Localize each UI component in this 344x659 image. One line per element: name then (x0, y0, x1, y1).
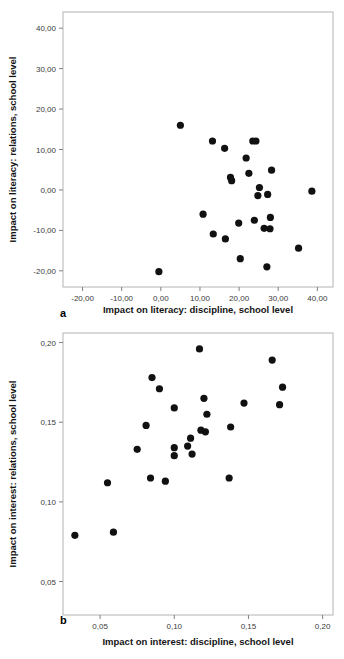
data-point (276, 401, 283, 408)
x-tick-label: 40,00 (307, 294, 328, 303)
data-point (171, 404, 178, 411)
data-point (226, 474, 233, 481)
data-point (264, 191, 271, 198)
data-point (188, 450, 195, 457)
scatter-figure-b: 0,050,100,150,200,050,100,150,20Impact o… (0, 320, 344, 659)
data-point (237, 255, 244, 262)
data-point (200, 395, 207, 402)
data-point (221, 145, 228, 152)
data-point (134, 446, 141, 453)
y-tick-label: -20,00 (33, 267, 56, 276)
data-point (243, 154, 250, 161)
data-point (156, 385, 163, 392)
data-point (256, 184, 263, 191)
data-point (209, 137, 216, 144)
data-point (268, 167, 275, 174)
x-axis-title: Impact on literacy: discipline, school l… (103, 304, 293, 315)
x-tick-label: -10,00 (110, 294, 133, 303)
data-point (308, 188, 315, 195)
y-tick-label: 10,00 (36, 146, 57, 155)
data-point (228, 177, 235, 184)
data-point (210, 230, 217, 237)
y-tick-label: 20,00 (36, 105, 57, 114)
panel-letter-b: b (60, 614, 67, 626)
data-point (251, 217, 258, 224)
data-point (147, 474, 154, 481)
x-tick-label: 0,20 (315, 622, 331, 631)
data-point (227, 423, 234, 430)
x-tick-label: 10,00 (190, 294, 211, 303)
data-point (235, 220, 242, 227)
data-point (162, 478, 169, 485)
x-tick-label: 30,00 (268, 294, 289, 303)
data-point (110, 529, 117, 536)
data-point (202, 428, 209, 435)
data-point (222, 235, 229, 242)
data-point (104, 479, 111, 486)
y-tick-label: 0,20 (40, 339, 56, 348)
data-point (199, 211, 206, 218)
data-point (266, 225, 273, 232)
data-point (279, 384, 286, 391)
data-point (203, 411, 210, 418)
data-point (245, 170, 252, 177)
scatter-plot-a: -20,00-10,000,0010,0020,0030,0040,00-20,… (0, 0, 344, 330)
y-tick-label: 0,15 (40, 418, 56, 427)
data-point (177, 122, 184, 129)
x-tick-label: 0,00 (153, 294, 169, 303)
data-point (184, 443, 191, 450)
data-point (148, 374, 155, 381)
data-point (240, 400, 247, 407)
data-point (71, 532, 78, 539)
x-tick-label: 0,10 (166, 622, 182, 631)
x-tick-label: -20,00 (71, 294, 94, 303)
data-point (142, 422, 149, 429)
y-tick-label: 40,00 (36, 24, 57, 33)
y-tick-label: 0,05 (40, 578, 56, 587)
x-tick-label: 0,15 (241, 622, 257, 631)
plot-frame (63, 12, 333, 287)
x-tick-label: 0,05 (92, 622, 108, 631)
data-point (171, 444, 178, 451)
y-tick-label: 0,00 (40, 186, 56, 195)
data-point (254, 192, 261, 199)
y-tick-label: 30,00 (36, 65, 57, 74)
y-axis-title: Impact on literacy: relations, school le… (7, 57, 18, 243)
data-point (155, 268, 162, 275)
y-tick-label: 0,10 (40, 498, 56, 507)
scatter-plot-b: 0,050,100,150,200,050,100,150,20Impact o… (0, 320, 344, 659)
panel-letter-a: a (60, 307, 67, 319)
data-point (252, 137, 259, 144)
data-point (267, 214, 274, 221)
data-point (171, 452, 178, 459)
data-point (263, 263, 270, 270)
y-tick-label: -10,00 (33, 226, 56, 235)
x-tick-label: 20,00 (229, 294, 250, 303)
data-point (269, 356, 276, 363)
data-point (196, 345, 203, 352)
plot-frame (63, 333, 333, 615)
x-axis-title: Impact on interest: discipline, school l… (102, 636, 293, 647)
scatter-figure-a: -20,00-10,000,0010,0020,0030,0040,00-20,… (0, 0, 344, 330)
y-axis-title: Impact on interest: relations, school le… (7, 381, 18, 568)
data-point (295, 245, 302, 252)
data-point (187, 435, 194, 442)
